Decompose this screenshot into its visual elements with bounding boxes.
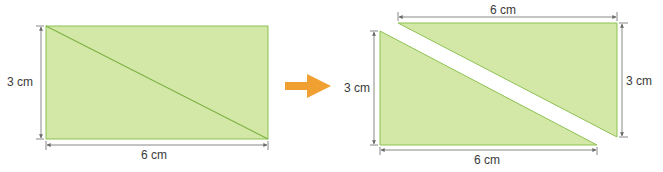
top-triangle-height-label: 3 cm xyxy=(626,75,652,87)
left-height-label: 3 cm xyxy=(7,76,33,88)
right-triangles-figure xyxy=(370,12,628,155)
diagram-canvas xyxy=(0,0,663,172)
left-width-label: 6 cm xyxy=(141,149,167,161)
left-rectangle-figure xyxy=(36,26,268,150)
bottom-triangle-height-label: 3 cm xyxy=(344,82,370,94)
bottom-triangle-height-dimension xyxy=(370,31,378,145)
arrow-right-icon xyxy=(285,74,331,98)
left-height-dimension xyxy=(36,26,44,139)
top-triangle-width-label: 6 cm xyxy=(490,4,516,16)
bottom-triangle-width-label: 6 cm xyxy=(474,154,500,166)
